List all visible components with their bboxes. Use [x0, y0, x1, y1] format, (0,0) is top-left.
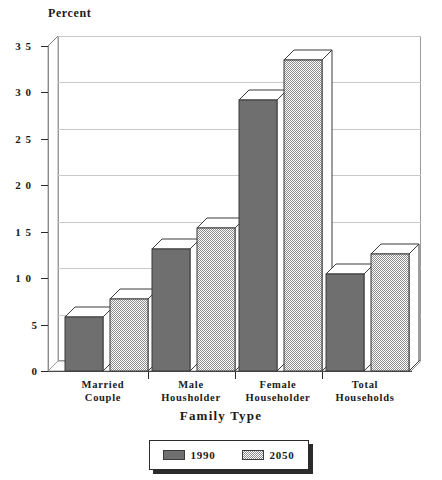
y-tick-label: 1 0: [4, 272, 32, 284]
y-tick-label: 0: [10, 365, 38, 377]
y-tick-mark: [41, 139, 48, 140]
gridline: [58, 315, 421, 316]
bar-chart: Percent 0 5 1 0 1 5 2 0: [0, 0, 442, 480]
gridline: [58, 82, 421, 83]
y-tick-label: 2 0: [4, 179, 32, 191]
gridline: [58, 36, 421, 37]
y-tick-label: 2 5: [4, 133, 32, 145]
gridline: [58, 175, 421, 176]
legend-swatch-2050-icon: [242, 450, 264, 460]
y-tick-mark: [41, 185, 48, 186]
gridline: [58, 129, 421, 130]
y-tick-mark: [41, 46, 48, 47]
legend-label-2050: 2050: [269, 449, 294, 461]
y-tick-label: 5: [10, 319, 38, 331]
x-category-line: Households: [313, 391, 417, 404]
x-axis-title: Family Type: [0, 408, 442, 424]
x-axis-line: [48, 371, 412, 372]
y-tick-mark: [41, 232, 48, 233]
legend-swatch-1990-icon: [163, 450, 185, 460]
plot-back-wall: [58, 36, 421, 361]
y-axis-line: [48, 46, 49, 372]
legend-item-2050: 2050: [242, 449, 294, 461]
y-tick-mark: [41, 278, 48, 279]
y-tick-label: 3 0: [4, 86, 32, 98]
gridline: [58, 361, 421, 362]
y-tick-mark: [41, 325, 48, 326]
legend-label-1990: 1990: [190, 449, 215, 461]
x-category-line: Total: [313, 378, 417, 391]
y-tick-mark: [41, 371, 48, 372]
y-tick-label: 1 5: [4, 226, 32, 238]
x-category-label-total: Total Households: [313, 378, 417, 404]
legend: 1990 2050: [149, 440, 309, 470]
gridline: [58, 222, 421, 223]
y-tick-label: 3 5: [4, 40, 32, 52]
y-tick-mark: [41, 92, 48, 93]
gridline: [58, 268, 421, 269]
legend-item-1990: 1990: [163, 449, 215, 461]
